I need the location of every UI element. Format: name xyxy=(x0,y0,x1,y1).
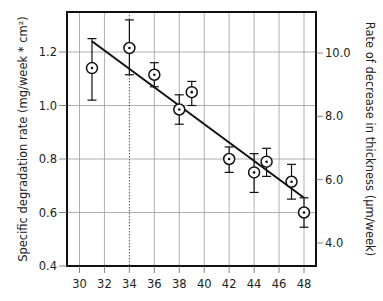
y-axis-left-ticks: 0.40.60.81.01.2 xyxy=(39,45,67,273)
y-tick-label: 0.8 xyxy=(39,152,57,166)
data-point xyxy=(249,154,260,193)
y-axis-right-label: Rate of decrease in thickness (µm/week) xyxy=(363,22,377,256)
x-tick-label: 34 xyxy=(122,277,137,291)
y-axis-left-label: Specific degradation rate (mg/week * cm²… xyxy=(16,16,30,262)
y-tick-label: 0.6 xyxy=(39,206,57,220)
chart: 30323436384042444648 0.40.60.81.01.2 4.0… xyxy=(0,0,383,301)
data-point xyxy=(174,95,185,124)
fit-line xyxy=(92,41,304,197)
data-point xyxy=(86,39,97,101)
x-tick-label: 32 xyxy=(97,277,112,291)
x-tick-label: 44 xyxy=(247,277,262,291)
x-tick-label: 48 xyxy=(297,277,312,291)
data-points xyxy=(86,20,309,227)
y-tick-label: 0.4 xyxy=(39,259,57,273)
y-right-tick-label: 10.0 xyxy=(325,46,351,60)
x-tick-label: 30 xyxy=(72,277,87,291)
data-point xyxy=(186,81,197,105)
data-point xyxy=(286,164,297,199)
data-point xyxy=(299,198,310,227)
y-right-tick-label: 6.0 xyxy=(325,173,343,187)
x-tick-label: 38 xyxy=(172,277,187,291)
y-right-tick-label: 4.0 xyxy=(325,236,343,250)
data-point xyxy=(224,147,235,172)
y-axis-right-ticks: 4.06.08.010.0 xyxy=(316,46,351,250)
y-right-tick-label: 8.0 xyxy=(325,109,343,123)
x-axis-ticks: 30323436384042444648 xyxy=(72,266,311,291)
y-tick-label: 1.0 xyxy=(39,99,57,113)
x-tick-label: 36 xyxy=(147,277,162,291)
x-tick-label: 46 xyxy=(272,277,287,291)
data-point xyxy=(149,63,160,87)
y-tick-label: 1.2 xyxy=(39,45,57,59)
x-tick-label: 42 xyxy=(222,277,237,291)
x-tick-label: 40 xyxy=(197,277,212,291)
